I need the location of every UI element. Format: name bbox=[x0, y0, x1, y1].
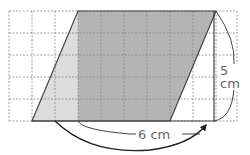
height-brace-lower bbox=[214, 88, 234, 121]
diagram: 5 cm 6 cm bbox=[0, 0, 250, 155]
figure-svg bbox=[0, 0, 250, 155]
height-label: 5 cm bbox=[218, 64, 250, 90]
rectangle-region bbox=[78, 11, 170, 121]
height-brace bbox=[216, 11, 234, 64]
base-label: 6 cm bbox=[136, 128, 172, 141]
move-arrow bbox=[55, 121, 206, 151]
